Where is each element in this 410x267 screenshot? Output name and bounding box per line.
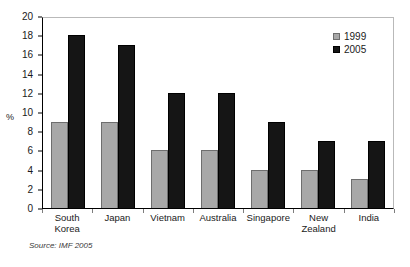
source-note: Source: IMF 2005 [29, 241, 92, 250]
legend-item: 1999 [333, 30, 366, 43]
bar-group [193, 18, 243, 208]
x-axis-tick-label: India [344, 212, 394, 234]
bar [318, 141, 335, 208]
bar-group [143, 18, 193, 208]
x-axis-tick-label: Singapore [243, 212, 293, 234]
y-axis: 20181614121086420 [0, 17, 38, 209]
legend-swatch-icon [333, 46, 340, 53]
x-axis-tick-label: South Korea [42, 212, 92, 234]
y-axis-tick-label: 20 [22, 12, 33, 22]
x-axis-tick-label: Japan [92, 212, 142, 234]
bar [51, 122, 68, 208]
y-axis-tick-label: 12 [22, 89, 33, 99]
y-axis-tick-label: 4 [27, 166, 33, 176]
y-axis-tick-label: 18 [22, 31, 33, 41]
bar [201, 150, 218, 208]
bar [151, 150, 168, 208]
x-axis-tick-label: New Zealand [293, 212, 343, 234]
legend: 19992005 [333, 30, 366, 56]
bar [351, 179, 368, 208]
x-axis-tick-mark [394, 209, 395, 213]
y-axis-tick-label: 8 [27, 127, 33, 137]
x-axis: South KoreaJapanVietnamAustraliaSingapor… [42, 212, 394, 234]
legend-swatch-icon [333, 33, 340, 40]
legend-label: 2005 [344, 45, 366, 55]
y-axis-tick-label: 14 [22, 70, 33, 80]
y-axis-tick-label: 16 [22, 50, 33, 60]
bar [118, 45, 135, 208]
y-axis-tick-label: 2 [27, 185, 33, 195]
bar [101, 122, 118, 208]
bar [168, 93, 185, 208]
bar-group [43, 18, 93, 208]
bar [251, 170, 268, 208]
bar [218, 93, 235, 208]
bar-group [243, 18, 293, 208]
bar [368, 141, 385, 208]
bar [268, 122, 285, 208]
bar-group [93, 18, 143, 208]
legend-item: 2005 [333, 43, 366, 56]
bar [301, 170, 318, 208]
legend-label: 1999 [344, 32, 366, 42]
x-axis-tick-label: Australia [193, 212, 243, 234]
y-axis-tick-label: 0 [27, 204, 33, 214]
y-axis-tick-label: 10 [22, 108, 33, 118]
bar [68, 35, 85, 208]
bar-chart-figure: % 20181614121086420 South KoreaJapanViet… [0, 0, 410, 267]
y-axis-tick-label: 6 [27, 146, 33, 156]
x-axis-tick-label: Vietnam [143, 212, 193, 234]
